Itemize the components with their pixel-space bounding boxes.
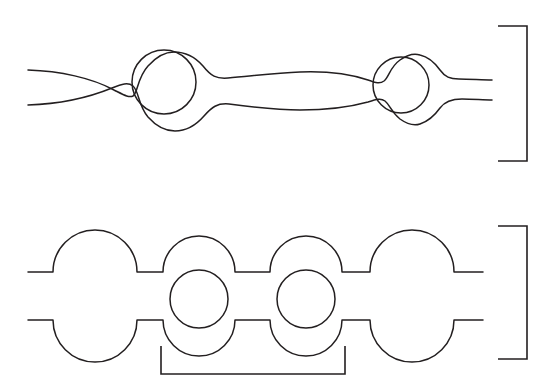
figure-root <box>0 0 553 381</box>
top-panel-upper-wall <box>28 52 492 97</box>
top-panel <box>28 26 527 161</box>
bottom-panel-lower-wall <box>28 320 483 362</box>
top-panel-lower-wall <box>28 84 492 131</box>
bottom-panel-pore-2 <box>277 270 335 328</box>
top-panel-right-bracket <box>498 26 527 161</box>
bottom-panel-unit-cell-bracket <box>161 346 345 374</box>
top-panel-pore-1 <box>132 50 196 114</box>
bottom-panel-pore-1 <box>170 270 228 328</box>
bottom-panel-upper-wall <box>28 230 483 272</box>
bottom-panel <box>28 226 527 374</box>
bottom-panel-right-bracket <box>498 226 527 359</box>
top-panel-pore-2 <box>373 57 429 113</box>
schematic-diagram <box>0 0 553 381</box>
